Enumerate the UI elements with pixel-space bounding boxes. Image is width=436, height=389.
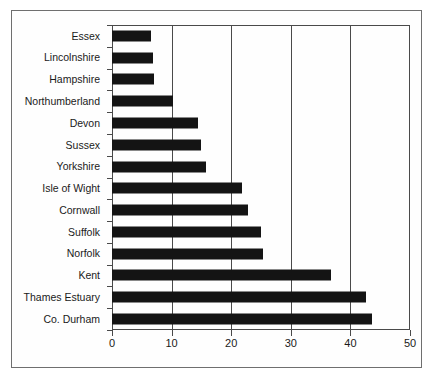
category-label: Sussex (66, 140, 100, 151)
bar-row (112, 156, 410, 178)
category-label: Co. Durham (43, 314, 100, 325)
x-axis-ticks (112, 330, 410, 336)
bar-row (112, 69, 410, 91)
category-label-cell: Lincolnshire (0, 47, 105, 69)
category-label: Kent (78, 270, 100, 281)
category-label: Devon (70, 118, 100, 129)
x-tick-50 (410, 330, 411, 336)
bar-row (112, 199, 410, 221)
bar-lincolnshire (112, 52, 153, 63)
category-label-cell: Norfolk (0, 243, 105, 265)
chart-page: EssexLincolnshireHampshireNorthumberland… (0, 0, 436, 389)
category-label-cell: Suffolk (0, 221, 105, 243)
category-label: Norfolk (67, 248, 100, 259)
bar-isle-of-wight (112, 183, 242, 194)
category-label: Hampshire (49, 74, 100, 85)
bar-series (112, 25, 410, 330)
bar-row (112, 25, 410, 47)
bar-suffolk (112, 226, 261, 237)
bar-cornwall (112, 205, 248, 216)
category-label-cell: Yorkshire (0, 156, 105, 178)
category-label-cell: Thames Estuary (0, 286, 105, 308)
category-label: Thames Estuary (24, 292, 100, 303)
bar-hampshire (112, 74, 154, 85)
category-label-cell: Isle of Wight (0, 177, 105, 199)
bar-row (112, 221, 410, 243)
x-tick-label-0: 0 (109, 338, 115, 349)
bar-norfolk (112, 248, 263, 259)
bar-row (112, 134, 410, 156)
bar-row (112, 265, 410, 287)
bar-row (112, 90, 410, 112)
x-tick-10 (172, 330, 173, 336)
bar-co-durham (112, 314, 372, 325)
category-label-cell: Essex (0, 25, 105, 47)
category-label: Yorkshire (57, 161, 100, 172)
bar-row (112, 47, 410, 69)
bar-northumberland (112, 96, 173, 107)
bar-yorkshire (112, 161, 206, 172)
category-label-cell: Sussex (0, 134, 105, 156)
scanned-body-text (8, 372, 428, 386)
category-label: Essex (71, 31, 100, 42)
category-label: Lincolnshire (44, 52, 100, 63)
category-label-cell: Cornwall (0, 199, 105, 221)
bar-row (112, 286, 410, 308)
bar-thames-estuary (112, 292, 366, 303)
x-axis-tick-labels: 01020304050 (112, 338, 410, 354)
x-tick-40 (350, 330, 351, 336)
bar-kent (112, 270, 331, 281)
category-label-cell: Devon (0, 112, 105, 134)
category-label-cell: Kent (0, 265, 105, 287)
x-tick-label-30: 30 (285, 338, 297, 349)
category-label-cell: Co. Durham (0, 308, 105, 330)
category-label-cell: Northumberland (0, 90, 105, 112)
x-tick-0 (112, 330, 113, 336)
category-label: Suffolk (68, 227, 100, 238)
category-label: Isle of Wight (42, 183, 100, 194)
bar-sussex (112, 139, 201, 150)
bar-row (112, 308, 410, 330)
x-tick-label-20: 20 (225, 338, 237, 349)
category-label: Northumberland (25, 96, 100, 107)
x-tick-20 (231, 330, 232, 336)
category-label: Cornwall (59, 205, 100, 216)
bar-row (112, 243, 410, 265)
category-label-cell: Hampshire (0, 69, 105, 91)
bar-row (112, 177, 410, 199)
bar-devon (112, 118, 198, 129)
bar-essex (112, 30, 151, 41)
x-tick-30 (291, 330, 292, 336)
bar-row (112, 112, 410, 134)
category-axis-labels: EssexLincolnshireHampshireNorthumberland… (0, 25, 105, 330)
x-tick-label-50: 50 (404, 338, 416, 349)
x-tick-label-40: 40 (344, 338, 356, 349)
x-tick-label-10: 10 (165, 338, 177, 349)
